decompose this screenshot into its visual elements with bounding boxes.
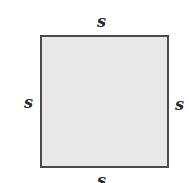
side-label-left: s — [24, 95, 33, 111]
side-label-top: s — [97, 14, 106, 30]
side-label-right: s — [175, 97, 184, 113]
square-shape — [40, 35, 169, 168]
square-diagram: s s s s — [0, 0, 189, 183]
side-label-bottom: s — [97, 173, 106, 183]
